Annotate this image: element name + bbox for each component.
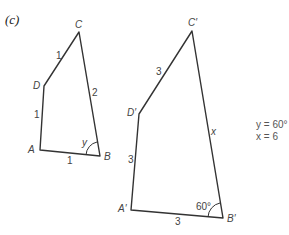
angle-y-label: y [82, 138, 87, 148]
quadrilaterals-svg [0, 0, 289, 235]
part-label: (c) [5, 13, 19, 26]
side-cb-prime-length: x [211, 127, 216, 137]
large-quadrilateral [131, 31, 223, 218]
vertex-b-prime: B′ [227, 214, 236, 224]
vertex-d-prime: D′ [127, 108, 136, 118]
side-ad-length: 1 [34, 110, 40, 120]
small-angle-arc [86, 142, 97, 155]
vertex-c-prime: C′ [188, 18, 197, 28]
vertex-d: D [33, 81, 40, 91]
angle-60-label: 60° [196, 202, 211, 212]
vertex-a: A [28, 145, 35, 155]
small-quadrilateral [40, 32, 100, 156]
side-ab-prime-length: 3 [175, 217, 181, 227]
vertex-b: B [104, 152, 111, 162]
vertex-a-prime: A′ [118, 204, 127, 214]
vertex-c: C [75, 20, 82, 30]
side-ab-length: 1 [67, 156, 73, 166]
side-dc-prime-length: 3 [156, 67, 162, 77]
side-dc-length: 1 [56, 51, 62, 61]
side-cb-length: 2 [92, 88, 98, 98]
diagram-root: (c) C D A B 1 2 1 1 y C′ D′ A′ B′ 3 x 3 … [0, 0, 289, 235]
answer-x: x = 6 [256, 131, 278, 143]
side-ad-prime-length: 3 [128, 155, 134, 165]
answer-y: y = 60° [256, 119, 288, 131]
